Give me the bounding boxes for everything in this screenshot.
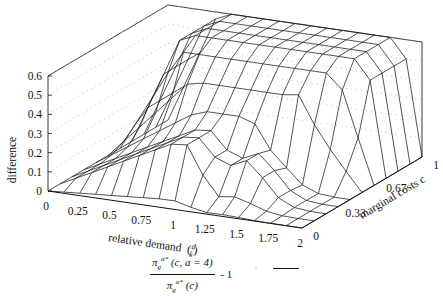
tick-label: 0.25 (68, 205, 88, 217)
tick-label: 1.75 (258, 232, 278, 244)
tick-label: 0.5 (102, 209, 117, 221)
tick-labels: 00.10.20.30.40.50.600.250.50.7511.251.51… (28, 70, 440, 249)
tick-label: 0.3 (28, 128, 43, 140)
tick-label: 2 (297, 237, 303, 249)
legend-line-sample (273, 268, 299, 269)
tick-label: 1.25 (195, 223, 215, 235)
tick-label: 0.75 (131, 214, 151, 226)
tick-label: 0 (313, 230, 319, 242)
tick-label: 1 (170, 219, 176, 231)
tick-label: 0 (36, 185, 42, 197)
legend-suffix: - 1 (220, 268, 232, 280)
tick-label: 0.2 (28, 147, 43, 159)
tick-label: 0 (43, 200, 49, 212)
tick-label: 0.6 (28, 70, 43, 82)
tick-label: 0.5 (28, 89, 43, 101)
tick-label: 0.4 (28, 108, 43, 120)
y-axis-label: marginal costs c (357, 172, 428, 221)
legend-marker-dot (255, 268, 257, 269)
tick-label: 1.5 (229, 228, 244, 240)
z-axis-label: difference (6, 137, 18, 183)
surface-mesh (48, 14, 422, 228)
tick-label: 1 (433, 159, 439, 171)
legend-numerator: πgα* (c, a = 4) (150, 252, 215, 275)
legend-denominator: πgα* (c) (150, 275, 215, 297)
tick-label: 0.1 (28, 166, 43, 178)
legend-fraction: πgα* (c, a = 4) πgα* (c) (150, 252, 215, 297)
legend: πgα* (c, a = 4) πgα* (c) - 1 (150, 252, 232, 297)
